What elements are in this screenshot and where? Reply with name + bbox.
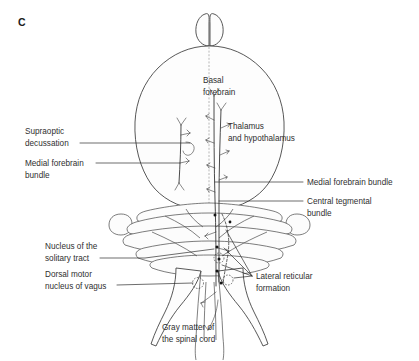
label-nucleus-solitary-tract-line1: Nucleus of the: [45, 242, 98, 251]
bouton-2: [229, 221, 232, 224]
label-thalamus-line2: and hypothalamus: [228, 134, 295, 143]
label-supraoptic-decussation-line2: decussation: [25, 139, 69, 148]
cerebellum-folium-5: [150, 255, 269, 276]
label-medial-forebrain-bundle-left-line2: bundle: [25, 171, 50, 180]
panel-letter: C: [18, 16, 26, 28]
label-basal-forebrain-line2: forebrain: [203, 88, 236, 97]
bouton-3: [216, 246, 219, 249]
olfactory-bulb-left: [196, 14, 209, 46]
label-lateral-reticular-formation-line1: Lateral reticular: [256, 272, 313, 281]
label-dorsal-motor-nucleus-line2: nucleus of vagus: [45, 282, 106, 291]
label-gray-matter-spinal-cord-line1: Gray matter of: [162, 323, 215, 332]
label-central-tegmental-bundle-line2: bundle: [307, 209, 332, 218]
tract-brainstem-branch: [201, 292, 216, 307]
bouton-5: [216, 270, 219, 273]
label-supraoptic-decussation-line1: Supraoptic: [25, 127, 64, 136]
label-basal-forebrain-line1: Basal: [203, 76, 224, 85]
brain-outline-group: [109, 14, 310, 360]
label-gray-matter-spinal-cord-line2: the spinal cord: [162, 335, 216, 344]
olfactory-bulb-right: [210, 14, 223, 46]
label-central-tegmental-bundle-line1: Central tegmental: [307, 197, 372, 206]
label-dorsal-motor-nucleus-line1: Dorsal motor: [45, 270, 92, 279]
label-medial-forebrain-bundle-right: Medial forebrain bundle: [307, 178, 393, 187]
label-nucleus-solitary-tract-line2: solitary tract: [45, 254, 90, 263]
bouton-4: [218, 258, 221, 261]
spinal-cord-outline: [195, 271, 201, 360]
bouton-1: [214, 214, 217, 217]
label-lateral-reticular-formation-line2: formation: [256, 284, 291, 293]
label-medial-forebrain-bundle-left-line1: Medial forebrain: [25, 159, 84, 168]
bouton-6: [220, 282, 223, 285]
brain-pathway-diagram: C: [0, 0, 419, 361]
label-thalamus-line1: Thalamus: [228, 122, 264, 131]
